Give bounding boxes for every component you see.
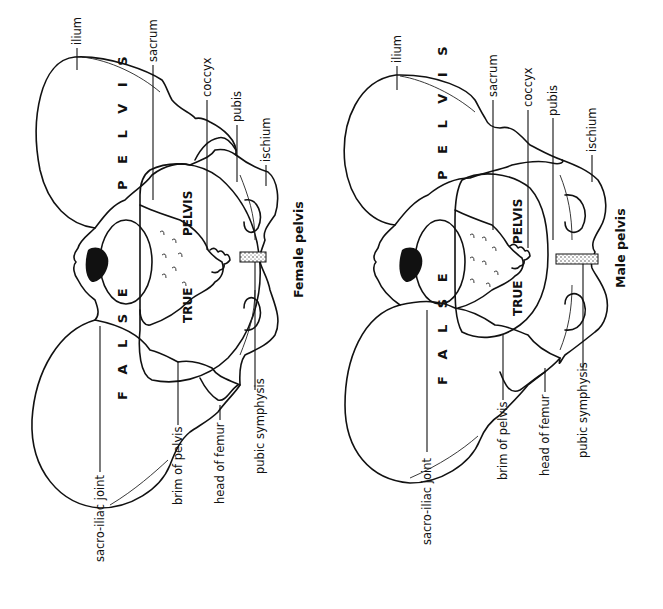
male-region-true: TRUE (511, 281, 525, 316)
male-pelvis-drawing: P E L V I S F A L S E TRUE PELVIS ilium … (344, 35, 628, 545)
male-sacral-foramina (470, 234, 498, 287)
male-label-brim-of-pelvis: brim of pelvis (496, 402, 510, 480)
male-region-pelvis-inner: PELVIS (511, 199, 525, 244)
female-label-sacrum: sacrum (146, 19, 160, 62)
female-spinous-process (86, 248, 109, 282)
female-label-sacro-iliac-joint: sacro-iliac joint (93, 474, 107, 562)
female-caption: Female pelvis (291, 201, 306, 298)
male-label-pubis: pubis (546, 85, 560, 116)
female-label-pubis: pubis (230, 91, 244, 122)
female-pubic-symphysis (240, 252, 266, 262)
pelvis-diagram: P E L V I S F A L S E TRUE PELVIS ilium … (0, 0, 663, 609)
male-label-head-of-femur: head of femur (538, 394, 552, 476)
male-label-sacro-iliac-joint: sacro-iliac joint (420, 457, 434, 545)
male-spinous-process (399, 248, 422, 282)
female-label-brim-of-pelvis: brim of pelvis (171, 427, 185, 505)
female-sacral-foramina (160, 229, 188, 286)
female-label-ischium: ischium (259, 118, 273, 162)
female-label-head-of-femur: head of femur (213, 422, 227, 504)
male-label-sacrum: sacrum (486, 54, 500, 97)
male-pubic-symphysis (556, 254, 598, 264)
male-label-ilium: ilium (390, 35, 404, 63)
male-label-coccyx: coccyx (521, 67, 535, 107)
female-region-false: F A L S E (115, 282, 130, 400)
male-label-ischium: ischium (585, 108, 599, 152)
female-label-coccyx: coccyx (200, 57, 214, 97)
female-region-pelvis-top: P E L V I S (115, 50, 130, 190)
male-region-pelvis-top: P E L V I S (435, 40, 450, 180)
female-pubic-region-outline (236, 155, 278, 385)
female-pelvis-drawing: P E L V I S F A L S E TRUE PELVIS ilium … (32, 17, 306, 562)
male-true-pelvis-outline (455, 174, 548, 337)
male-caption: Male pelvis (613, 208, 628, 288)
male-region-false: F A L S E (435, 267, 450, 385)
female-label-ilium: ilium (70, 17, 84, 45)
male-label-pubic-symphysis: pubic symphysis (576, 362, 590, 458)
female-lower-ilium-outline (32, 320, 240, 508)
female-region-true: TRUE (181, 288, 195, 323)
female-region-pelvis-inner: PELVIS (181, 191, 195, 236)
female-label-pubic-symphysis: pubic symphysis (253, 378, 267, 474)
